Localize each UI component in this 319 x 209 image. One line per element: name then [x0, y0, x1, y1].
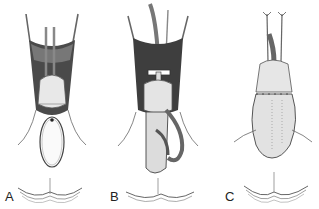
- panel-b-illustration: [106, 0, 212, 209]
- panel-label-a: A: [5, 190, 14, 203]
- panel-b: B: [106, 0, 212, 209]
- panel-label-c: C: [225, 190, 234, 203]
- panel-a: A: [0, 0, 106, 209]
- panel-c-illustration: [212, 0, 319, 209]
- panel-c: C: [212, 0, 319, 209]
- panel-label-b: B: [110, 190, 119, 203]
- panel-a-illustration: [0, 0, 106, 209]
